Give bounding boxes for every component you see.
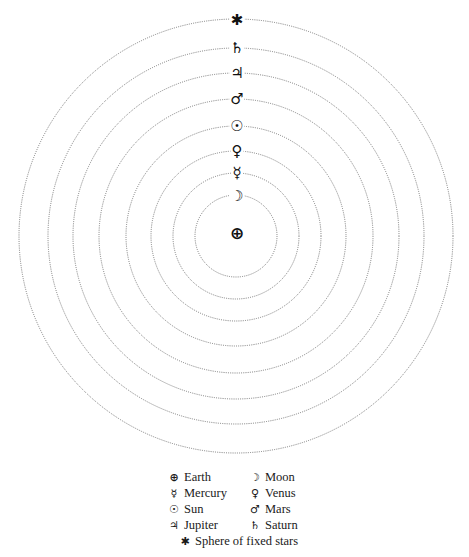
- saturn-icon: ♄: [229, 41, 244, 56]
- venus-icon: ♀: [231, 144, 244, 159]
- earth-icon: ⊕: [168, 470, 180, 486]
- legend-item-fixed-stars: ✱Sphere of fixed stars: [179, 533, 298, 550]
- legend-label: Saturn: [265, 518, 298, 532]
- sun-icon: ☉: [168, 502, 180, 518]
- moon-icon: ☽: [249, 470, 261, 486]
- legend: ⊕Earth ☽Moon ☿Mercury ♀Venus ☉Sun ♂Mars …: [0, 468, 469, 557]
- fixed-stars-icon: ✱: [230, 13, 245, 28]
- geocentric-diagram: ⊕ ☽ ☿ ♀ ☉ ♂ ♃ ♄ ✱: [0, 0, 469, 470]
- legend-item-moon: ☽Moon: [249, 469, 295, 486]
- legend-label: Earth: [184, 470, 211, 484]
- legend-label: Sun: [184, 502, 203, 516]
- legend-label: Moon: [265, 470, 295, 484]
- legend-item-venus: ♀Venus: [249, 485, 296, 502]
- legend-item-sun: ☉Sun: [168, 501, 203, 518]
- legend-label: Mars: [265, 502, 291, 516]
- fixed-stars-icon: ✱: [179, 534, 191, 550]
- jupiter-icon: ♃: [168, 518, 180, 534]
- legend-item-saturn: ♄Saturn: [249, 517, 298, 534]
- venus-icon: ♀: [249, 486, 261, 502]
- legend-label: Mercury: [184, 486, 227, 500]
- mars-icon: ♂: [249, 502, 261, 518]
- legend-label: Jupiter: [184, 518, 218, 532]
- moon-icon: ☽: [229, 189, 244, 204]
- legend-label: Sphere of fixed stars: [195, 534, 298, 548]
- legend-label: Venus: [265, 486, 296, 500]
- legend-item-mars: ♂Mars: [249, 501, 291, 518]
- sun-icon: ☉: [229, 119, 244, 134]
- jupiter-icon: ♃: [229, 66, 244, 81]
- legend-item-earth: ⊕Earth: [168, 469, 211, 486]
- mercury-icon: ☿: [168, 486, 180, 502]
- saturn-icon: ♄: [249, 518, 261, 534]
- mars-icon: ♂: [229, 92, 244, 107]
- legend-item-mercury: ☿Mercury: [168, 485, 227, 502]
- legend-item-jupiter: ♃Jupiter: [168, 517, 218, 534]
- mercury-icon: ☿: [231, 166, 242, 181]
- earth-icon: ⊕: [229, 225, 245, 242]
